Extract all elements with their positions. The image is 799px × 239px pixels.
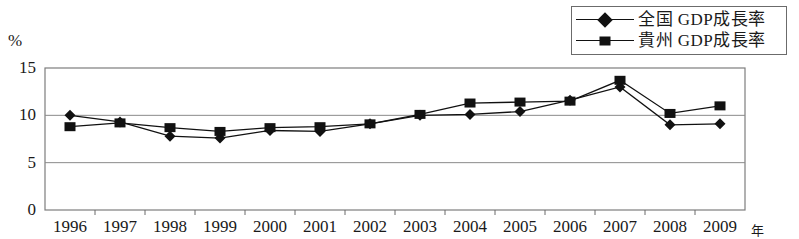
data-point-marker-square bbox=[115, 118, 126, 127]
square-marker-icon bbox=[600, 36, 611, 45]
x-axis-tick-label: 2009 bbox=[695, 218, 745, 235]
data-point-marker-diamond bbox=[665, 119, 676, 130]
diamond-marker-icon bbox=[597, 12, 613, 28]
legend-label-guizhou: 貴州 GDP成長率 bbox=[634, 32, 766, 49]
x-axis-tick-label: 2004 bbox=[445, 218, 495, 235]
plot-frame bbox=[45, 68, 745, 210]
data-point-marker-square bbox=[565, 97, 576, 106]
data-point-marker-square bbox=[65, 122, 76, 131]
x-axis-name-label: 年 bbox=[751, 224, 764, 237]
chart-legend: 全国 GDP成長率 貴州 GDP成長率 bbox=[571, 6, 787, 55]
x-axis-tick-label: 1996 bbox=[45, 218, 95, 235]
legend-sample-diamond bbox=[576, 13, 634, 27]
x-axis-tick-label: 2003 bbox=[395, 218, 445, 235]
data-point-marker-square bbox=[665, 109, 676, 118]
x-axis-tick-label: 2002 bbox=[345, 218, 395, 235]
data-point-marker-square bbox=[515, 98, 526, 107]
data-point-marker-square bbox=[415, 110, 426, 119]
legend-label-national: 全国 GDP成長率 bbox=[634, 11, 766, 28]
x-axis-tick-label: 2000 bbox=[245, 218, 295, 235]
data-point-marker-square bbox=[215, 127, 226, 136]
data-point-marker-diamond bbox=[715, 118, 726, 129]
x-axis-tick-label: 2006 bbox=[545, 218, 595, 235]
x-axis-tick-label: 1997 bbox=[95, 218, 145, 235]
data-point-marker-diamond bbox=[165, 131, 176, 142]
legend-item-guizhou: 貴州 GDP成長率 bbox=[576, 30, 782, 51]
gdp-growth-rate-chart: % 051015 1996199719981999200020012002200… bbox=[0, 0, 799, 239]
x-axis-tick-label: 2005 bbox=[495, 218, 545, 235]
data-point-marker-square bbox=[715, 101, 726, 110]
x-axis-tick-label: 2007 bbox=[595, 218, 645, 235]
legend-item-national: 全国 GDP成長率 bbox=[576, 9, 782, 30]
x-axis-tick-label: 2008 bbox=[645, 218, 695, 235]
data-point-marker-diamond bbox=[65, 110, 76, 121]
x-axis-tick-label: 1999 bbox=[195, 218, 245, 235]
data-point-marker-square bbox=[615, 76, 626, 85]
data-point-marker-diamond bbox=[465, 109, 476, 120]
x-axis-tick-label: 1998 bbox=[145, 218, 195, 235]
legend-sample-square bbox=[576, 34, 634, 48]
data-point-marker-square bbox=[165, 123, 176, 132]
data-point-marker-square bbox=[315, 122, 326, 131]
data-point-marker-square bbox=[465, 99, 476, 108]
x-axis-tick-label: 2001 bbox=[295, 218, 345, 235]
data-point-marker-square bbox=[365, 119, 376, 128]
data-point-marker-square bbox=[265, 123, 276, 132]
